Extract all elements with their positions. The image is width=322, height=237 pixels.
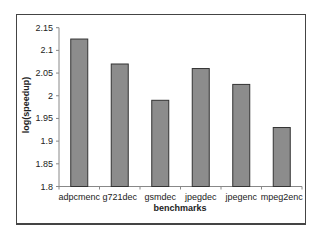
bar-adpcmenc — [71, 39, 88, 186]
bar-jpegenc — [233, 84, 250, 186]
bar-chart: 1.81.851.91.9522.052.12.15 adpcmencg721d… — [0, 0, 322, 237]
bar-jpegdec — [192, 69, 209, 187]
x-tick-label: gsmdec — [144, 192, 176, 202]
y-axis: 1.81.851.91.9522.052.12.15 — [35, 23, 59, 192]
y-tick-label: 2.1 — [40, 45, 53, 55]
bar-gsmdec — [152, 100, 169, 186]
y-tick-label: 1.9 — [40, 136, 53, 146]
x-axis: adpcmencg721decgsmdecjpegdecjpegencmpeg2… — [58, 187, 303, 202]
y-tick-label: 2.15 — [35, 23, 53, 33]
y-tick-label: 2 — [48, 91, 53, 101]
y-axis-title: log(speedup) — [21, 77, 31, 134]
x-tick-label: jpegenc — [224, 192, 257, 202]
x-tick-label: mpeg2enc — [261, 192, 304, 202]
bar-mpeg2enc — [273, 128, 290, 187]
x-axis-title: benchmarks — [153, 203, 206, 213]
y-tick-label: 1.85 — [35, 159, 53, 169]
bars — [71, 39, 291, 186]
x-tick-label: jpegdec — [184, 192, 217, 202]
y-tick-label: 2.05 — [35, 68, 53, 78]
x-tick-label: adpcmenc — [58, 192, 100, 202]
y-tick-label: 1.8 — [40, 182, 53, 192]
bar-g721dec — [111, 64, 128, 187]
x-tick-label: g721dec — [102, 192, 137, 202]
y-tick-label: 1.95 — [35, 113, 53, 123]
